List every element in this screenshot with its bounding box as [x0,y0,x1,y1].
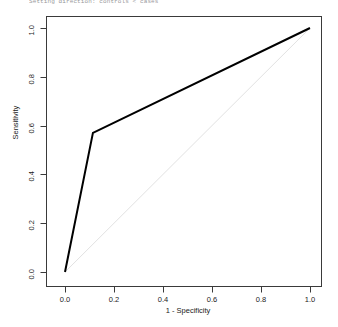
y-tick-label: 0.2 [24,219,38,228]
x-tick-label: 0.4 [158,295,168,304]
x-tick-label: 0.0 [60,295,70,304]
x-axis-ticks [66,287,311,293]
y-tick-label: 0.4 [24,170,38,179]
x-tick-label: 1.0 [305,295,315,304]
y-tick-label: 0.8 [24,73,38,82]
x-tick-label: 0.8 [256,295,266,304]
x-tick-label: 0.2 [109,295,119,304]
y-axis-label: Sensitivity [8,128,22,137]
chance-diagonal-line [65,28,310,272]
y-tick-label: 0.0 [24,268,38,277]
x-axis-label: 1 - Specificity [166,306,211,315]
x-tick-label: 0.6 [207,295,217,304]
roc-plot: 0.0 0.2 0.4 0.6 0.8 1.0 0.0 0.2 0.4 0.6 … [0,0,338,327]
y-axis-ticks [41,29,47,273]
plot-canvas [0,0,338,327]
y-tick-label: 0.6 [24,122,38,131]
y-tick-label: 1.0 [24,24,38,33]
